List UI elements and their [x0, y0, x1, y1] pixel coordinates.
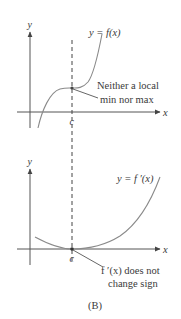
top-graph: y x y = f(x) Neither a local min nor max… — [17, 19, 168, 128]
bottom-graph: y x y = f ′(x) f ′(x) does not change si… — [17, 156, 168, 289]
bottom-c-label: c — [70, 253, 75, 264]
top-annotation-line2: min nor max — [100, 94, 154, 105]
top-y-axis-label: y — [27, 19, 33, 30]
bottom-annotation-line2: change sign — [108, 278, 159, 289]
top-x-axis-label: x — [162, 107, 168, 118]
bottom-annotation-line1: f ′(x) does not — [101, 265, 160, 277]
top-annotation-line1: Neither a local — [97, 80, 159, 91]
bottom-y-axis-label: y — [27, 156, 33, 167]
f-curve-label: y = f(x) — [88, 27, 121, 39]
f-prime-curve-label: y = f ′(x) — [116, 173, 154, 185]
bottom-annotation-leader — [73, 250, 103, 267]
f-curve — [38, 34, 102, 128]
f-prime-curve — [35, 177, 160, 249]
bottom-x-axis-label: x — [162, 244, 168, 255]
figure-b-diagram: y x y = f(x) Neither a local min nor max… — [0, 0, 181, 319]
figure-caption: (B) — [88, 300, 103, 312]
top-annotation-leader — [73, 89, 98, 98]
